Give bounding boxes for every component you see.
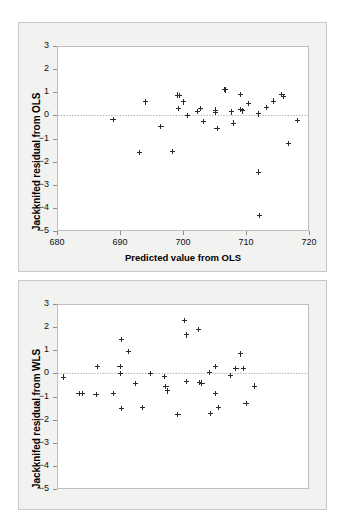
y-tick-mark: [53, 304, 57, 305]
y-tick-mark: [53, 208, 57, 209]
y-tick-label: 1: [23, 344, 49, 354]
y-tick-label: −3: [23, 437, 49, 447]
plot-wrapper-ols: Jackknifed residual from OLS Predicted v…: [19, 23, 326, 271]
y-tick-label: −1: [23, 391, 49, 401]
data-point-marker: [181, 99, 186, 104]
data-point-marker: [126, 349, 131, 354]
data-point-marker: [243, 401, 248, 406]
data-point-marker: [231, 120, 236, 125]
data-point-marker: [216, 405, 221, 410]
y-tick-label: 0: [23, 367, 49, 377]
data-point-marker: [111, 391, 116, 396]
data-point-marker: [264, 105, 269, 110]
y-tick-label: −5: [23, 483, 49, 493]
data-point-marker: [198, 106, 203, 111]
y-tick-mark: [53, 397, 57, 398]
y-tick-mark: [53, 327, 57, 328]
data-point-marker: [271, 98, 276, 103]
data-point-marker: [295, 118, 300, 123]
y-tick-mark: [53, 46, 57, 47]
y-tick-mark: [53, 92, 57, 93]
data-point-marker: [252, 383, 257, 388]
data-point-marker: [170, 149, 175, 154]
data-point-marker: [119, 337, 124, 342]
scatter-markers-wls: [19, 281, 328, 511]
data-point-marker: [246, 101, 251, 106]
y-tick-label: −2: [23, 156, 49, 166]
y-tick-label: −4: [23, 202, 49, 212]
x-tick-label: 700: [163, 237, 203, 247]
y-tick-label: −1: [23, 133, 49, 143]
data-point-marker: [223, 87, 228, 92]
y-tick-label: 3: [23, 40, 49, 50]
data-point-marker: [286, 141, 291, 146]
plot-wrapper-wls: Jackknifed residual from WLS: [19, 281, 326, 509]
data-point-marker: [110, 117, 115, 122]
data-point-marker: [229, 109, 234, 114]
data-point-marker: [199, 380, 204, 385]
x-tick-mark: [120, 231, 121, 235]
y-tick-label: −5: [23, 225, 49, 235]
y-tick-mark: [53, 443, 57, 444]
data-point-marker: [201, 119, 206, 124]
y-tick-label: 2: [23, 321, 49, 331]
data-point-marker: [196, 327, 201, 332]
y-tick-mark: [53, 489, 57, 490]
y-tick-mark: [53, 162, 57, 163]
data-point-marker: [148, 371, 153, 376]
y-tick-label: 3: [23, 298, 49, 308]
data-point-marker: [118, 371, 123, 376]
data-point-marker: [184, 332, 189, 337]
y-tick-mark: [53, 139, 57, 140]
y-tick-mark: [53, 420, 57, 421]
data-point-marker: [137, 150, 142, 155]
y-tick-mark: [53, 373, 57, 374]
data-point-marker: [213, 107, 218, 112]
data-point-marker: [95, 364, 100, 369]
data-point-marker: [143, 99, 148, 104]
data-point-marker: [214, 126, 219, 131]
data-point-marker: [256, 111, 261, 116]
y-tick-label: 2: [23, 63, 49, 73]
data-point-marker: [117, 364, 122, 369]
data-point-marker: [238, 351, 243, 356]
x-tick-mark: [183, 231, 184, 235]
data-point-marker: [195, 109, 200, 114]
data-point-marker: [185, 113, 190, 118]
x-tick-mark: [309, 231, 310, 235]
y-tick-mark: [53, 69, 57, 70]
data-point-marker: [208, 411, 213, 416]
x-tick-label: 720: [289, 237, 329, 247]
data-point-marker: [176, 106, 181, 111]
data-point-marker: [61, 374, 66, 379]
chart-panel-ols: Jackknifed residual from OLS Predicted v…: [18, 22, 327, 272]
data-point-marker: [158, 124, 163, 129]
data-point-marker: [182, 318, 187, 323]
data-point-marker: [207, 370, 212, 375]
x-tick-mark: [57, 231, 58, 235]
data-point-marker: [213, 364, 218, 369]
chart-panel-wls: Jackknifed residual from WLS 3210−1−2−3−…: [18, 280, 327, 510]
x-tick-label: 710: [226, 237, 266, 247]
data-point-marker: [213, 110, 218, 115]
data-point-marker: [93, 392, 98, 397]
y-tick-label: 1: [23, 86, 49, 96]
y-tick-label: −4: [23, 460, 49, 470]
data-point-marker: [213, 391, 218, 396]
y-tick-mark: [53, 185, 57, 186]
data-point-marker: [119, 406, 124, 411]
y-tick-mark: [53, 350, 57, 351]
data-point-marker: [162, 374, 167, 379]
y-tick-mark: [53, 466, 57, 467]
data-point-marker: [241, 366, 246, 371]
data-point-marker: [184, 379, 189, 384]
data-point-marker: [256, 169, 261, 174]
y-tick-label: 0: [23, 109, 49, 119]
data-point-marker: [233, 366, 238, 371]
x-tick-mark: [246, 231, 247, 235]
data-point-marker: [238, 92, 243, 97]
data-point-marker: [133, 381, 138, 386]
y-tick-mark: [53, 115, 57, 116]
data-point-marker: [257, 213, 262, 218]
y-tick-label: −3: [23, 179, 49, 189]
